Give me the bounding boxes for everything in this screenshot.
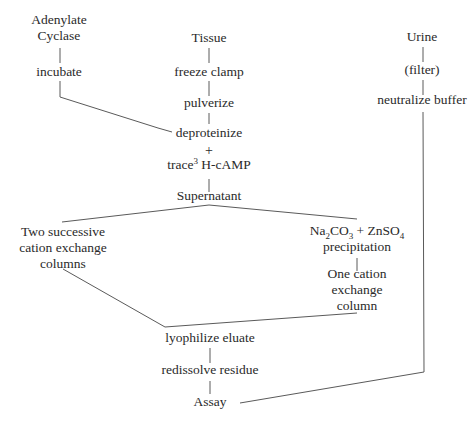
- node-supernatant: Supernatant: [177, 188, 241, 204]
- node-label: Adenylate: [31, 12, 86, 28]
- node-freeze-clamp: freeze clamp: [174, 64, 243, 80]
- node-label: deproteinize: [176, 125, 243, 141]
- node-deproteinize: deproteinize: [176, 125, 243, 141]
- node-label: trace3 H-cAMP: [167, 157, 251, 173]
- node-label: lyophilize eluate: [165, 330, 255, 346]
- node-neutralize-buffer: neutralize buffer: [377, 92, 466, 108]
- node-label: Na2CO3 + ZnSO4: [310, 223, 405, 239]
- node-label: redissolve residue: [161, 362, 258, 378]
- node-label: Two successive: [19, 224, 106, 240]
- node-label: column: [328, 298, 387, 314]
- node-label: Cyclase: [31, 28, 86, 44]
- edge-supernatant-precip: [209, 205, 357, 219]
- node-two-successive-columns: Two successive cation exchange columns: [19, 224, 106, 272]
- edge-supernatant-two: [62, 205, 209, 222]
- node-redissolve-residue: redissolve residue: [161, 362, 258, 378]
- node-label: Urine: [407, 29, 438, 45]
- node-label: (filter): [404, 62, 439, 78]
- flowchart-canvas: Adenylate Cyclase incubate Tissue freeze…: [0, 0, 469, 426]
- edge-two-lyophilize: [63, 269, 165, 327]
- node-precipitation: Na2CO3 + ZnSO4 precipitation: [310, 223, 405, 255]
- node-assay: Assay: [194, 394, 227, 410]
- node-lyophilize-eluate: lyophilize eluate: [165, 330, 255, 346]
- node-label: Tissue: [192, 30, 227, 46]
- node-label: exchange: [328, 282, 387, 298]
- node-label: Supernatant: [177, 188, 241, 204]
- node-trace-h-camp: trace3 H-cAMP: [167, 157, 251, 173]
- edge-incubate-deproteinize: [60, 81, 172, 132]
- node-label: +: [205, 145, 213, 157]
- plus-sign: +: [205, 145, 213, 157]
- node-label: Assay: [194, 394, 227, 410]
- node-label: precipitation: [310, 239, 405, 255]
- node-label: columns: [19, 256, 106, 272]
- node-label: incubate: [36, 64, 82, 80]
- node-pulverize: pulverize: [184, 95, 234, 111]
- node-one-cation-column: One cation exchange column: [328, 266, 387, 314]
- node-incubate: incubate: [36, 64, 82, 80]
- node-label: cation exchange: [19, 240, 106, 256]
- edge-neutralize-assay: [240, 112, 424, 403]
- node-label: pulverize: [184, 95, 234, 111]
- node-label: neutralize buffer: [377, 92, 466, 108]
- node-urine: Urine: [407, 29, 438, 45]
- node-label: freeze clamp: [174, 64, 243, 80]
- node-filter: (filter): [404, 62, 439, 78]
- node-tissue: Tissue: [192, 30, 227, 46]
- node-label: One cation: [328, 266, 387, 282]
- node-adenylate-cyclase: Adenylate Cyclase: [31, 12, 86, 44]
- edge-one-lyophilize: [165, 313, 357, 327]
